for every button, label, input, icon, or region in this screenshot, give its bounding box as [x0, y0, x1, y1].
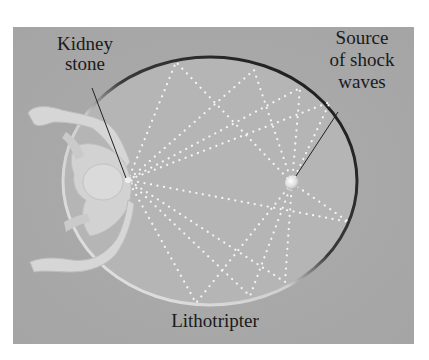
- kidney-stone-label: Kidney stone: [50, 34, 120, 74]
- lithotripter-label: Lithotripter: [160, 311, 270, 331]
- shock-source-label: Source of shock waves: [322, 27, 402, 93]
- shock-source-sphere: [285, 176, 299, 190]
